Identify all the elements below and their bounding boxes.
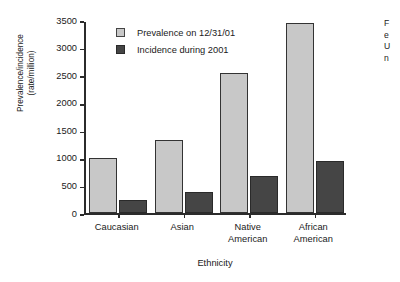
bar-chart-figure: Prevalence/incidence (rate/million) 0500… [0, 0, 400, 282]
y-axis-tick-mark [80, 132, 85, 134]
x-axis-tick-label-line: African [273, 222, 353, 234]
y-axis-title: Prevalence/incidence (rate/million) [16, 0, 46, 148]
bar-incidence [185, 192, 213, 214]
y-axis-title-line-2: (rate/million) [27, 0, 38, 148]
y-axis-tick-label: 1500 [56, 126, 77, 136]
x-axis-tick-mark [315, 213, 316, 218]
x-axis-tick-label: AfricanAmerican [273, 222, 353, 245]
x-axis-tick-mark [184, 213, 185, 218]
y-axis-tick-mark [80, 21, 85, 23]
clipped-caption-fragment: FeUn [384, 18, 400, 64]
y-axis-tick-label: 2000 [56, 98, 77, 108]
legend-label-prevalence: Prevalence on 12/31/01 [137, 28, 235, 38]
x-axis-line [84, 213, 346, 215]
y-axis-tick-mark [80, 49, 85, 51]
bar-group [286, 22, 344, 213]
clipped-caption-line: n [384, 53, 400, 65]
bar-prevalence [155, 140, 183, 213]
bar-prevalence [89, 158, 117, 213]
y-axis-title-line-1: Prevalence/incidence [16, 0, 27, 148]
clipped-caption-line: U [384, 41, 400, 53]
y-axis-tick-label: 3500 [56, 16, 77, 26]
bar-prevalence [286, 23, 314, 213]
bar-incidence [316, 161, 344, 213]
y-axis-tick-label: 1000 [56, 153, 77, 163]
legend-item-prevalence: Prevalence on 12/31/01 [116, 24, 235, 41]
legend-swatch-prevalence-icon [116, 28, 125, 37]
y-axis-tick-mark [80, 187, 85, 189]
x-axis-tick-mark [118, 213, 119, 218]
x-axis-tick-label-line: American [273, 234, 353, 246]
y-axis-tick-mark [80, 104, 85, 106]
clipped-caption-line: e [384, 30, 400, 42]
legend-label-incidence: Incidence during 2001 [137, 45, 229, 55]
bar-prevalence [220, 73, 248, 214]
y-axis-tick-mark [80, 214, 85, 216]
y-axis-tick-label: 0 [72, 209, 77, 219]
y-axis-tick-label: 3000 [56, 43, 77, 53]
y-axis-tick-label: 500 [61, 181, 77, 191]
x-axis-title: Ethnicity [84, 258, 346, 268]
y-axis-tick-mark [80, 159, 85, 161]
clipped-caption-line: F [384, 18, 400, 30]
y-axis-tick-label: 2500 [56, 71, 77, 81]
y-axis-tick-mark [80, 76, 85, 78]
legend-item-incidence: Incidence during 2001 [116, 41, 235, 58]
bar-incidence [119, 200, 147, 214]
legend-swatch-incidence-icon [116, 45, 125, 54]
bar-incidence [250, 176, 278, 213]
x-axis-tick-mark [249, 213, 250, 218]
chart-legend: Prevalence on 12/31/01 Incidence during … [116, 24, 235, 58]
